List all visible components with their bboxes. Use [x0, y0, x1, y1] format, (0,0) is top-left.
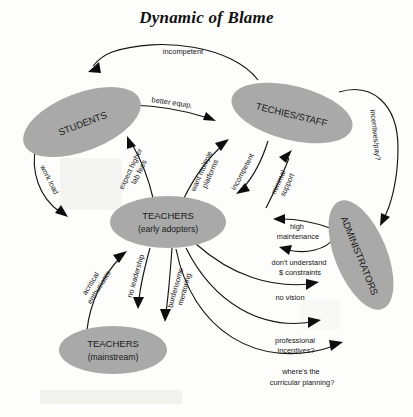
edge-early-to-mainstream-no-leadership: no leadership [125, 248, 150, 309]
edge-mainstream-to-early: acritical enthusiasts [77, 251, 127, 330]
edge-teachers-to-techies-platforms: want multiple platforms [184, 139, 229, 198]
diagram-canvas: Dynamic of Blame incompetent [0, 0, 413, 417]
node-label-teachers-mainstream: TEACHERS [87, 338, 139, 349]
node-sublabel-teachers-mainstream: (mainstream) [88, 352, 139, 362]
edge-label-want-multiple-platforms: want multiple platforms [188, 148, 223, 198]
edge-label-no-vision: no vision [275, 293, 304, 302]
node-techies-staff[interactable]: TECHIES/STAFF [225, 72, 358, 154]
edge-label-acritical-enthusiasts: acritical enthusiasts [77, 264, 112, 306]
edge-techies-to-teachers-incompetent: incompetent [229, 141, 268, 194]
edge-label-better-equip: better equip. [151, 95, 193, 110]
edge-label-minimal-support: minimal support [269, 167, 297, 199]
edge-label-high-maintenance: high maintenance [277, 222, 319, 241]
edge-label-curricular-planning: where's the curricular planning? [270, 367, 335, 387]
edge-teachers-to-techies-support: minimal support [266, 150, 297, 208]
edge-label-incentives-pay: incentives/pay? [368, 109, 382, 161]
node-label-teachers-early: TEACHERS [142, 210, 194, 221]
node-administrators[interactable]: ADMINISTRATORS [315, 191, 407, 318]
node-teachers-mainstream[interactable]: TEACHERS (mainstream) [59, 326, 167, 374]
node-sublabel-teachers-early: (early adopters) [138, 224, 198, 234]
edge-label-incompetent-mid: incompetent [229, 152, 256, 192]
edge-techies-to-students: incompetent [88, 45, 258, 80]
edge-students-to-techies: better equip. [131, 95, 216, 121]
edge-label-incompetent-top: incompetent [163, 47, 203, 56]
edge-early-to-mainstream-mentoring: burdensome mentoring [160, 248, 195, 322]
edge-label-dont-understand-constraints: don't understand $ constraints [272, 258, 329, 277]
blame-dynamic-diagram: incompetent better equip. expect higher … [0, 0, 413, 417]
edge-administrators-to-teachers-constraints: don't understand $ constraints [272, 238, 334, 277]
edge-label-expect-higher-lab-fees: expect higher lab fees [117, 145, 154, 195]
node-teachers-early-adopters[interactable]: TEACHERS (early adopters) [110, 196, 226, 248]
edge-teachers-to-students: expect higher lab fees [117, 136, 154, 198]
edge-administrators-to-teachers-high-maintenance: high maintenance [273, 214, 330, 241]
